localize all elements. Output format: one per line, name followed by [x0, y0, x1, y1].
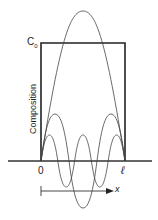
y-axis-label: Composition [28, 64, 38, 134]
c0-label: C0 [27, 36, 38, 49]
c0-subscript: 0 [34, 43, 37, 49]
x-arrow-head [106, 188, 114, 194]
length-label: ℓ [121, 164, 125, 176]
fundamental-curve [41, 11, 125, 161]
square-profile [41, 43, 125, 161]
x-axis-label: x [115, 184, 120, 194]
origin-label: 0 [38, 165, 44, 176]
fourier-diagram [0, 0, 158, 220]
